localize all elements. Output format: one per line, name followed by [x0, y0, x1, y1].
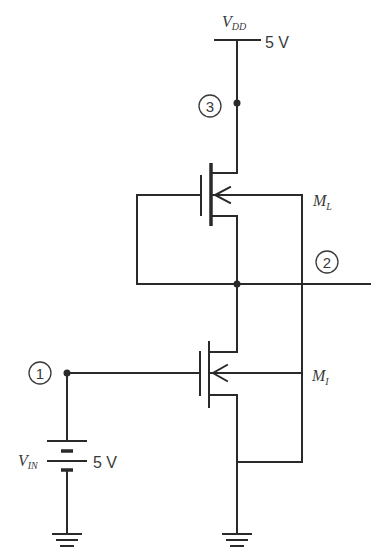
- load-gate-wire: [137, 195, 201, 284]
- node-3-label: 3: [206, 98, 214, 115]
- vin-value: 5 V: [93, 454, 117, 471]
- vin-label: VIN: [18, 452, 39, 471]
- driver-transistor: MI: [200, 342, 329, 407]
- node-1-label: 1: [36, 365, 44, 382]
- node-2-label: 2: [323, 254, 331, 271]
- battery-icon: [48, 441, 86, 470]
- circuit-diagram: VDD 5 V 3 ML 2 MI: [0, 0, 383, 559]
- node-3-dot: [234, 100, 241, 107]
- ground-left-icon: [53, 534, 81, 546]
- vdd-supply: VDD 5 V: [215, 13, 289, 51]
- vdd-value: 5 V: [265, 34, 289, 51]
- body-bus-wire: [237, 195, 302, 462]
- load-label: ML: [312, 192, 332, 212]
- node-2: 2: [234, 251, 339, 288]
- load-transistor: ML: [201, 163, 332, 226]
- ground-right-icon: [223, 534, 251, 546]
- node-3: 3: [199, 95, 241, 117]
- node-1: 1: [29, 362, 71, 384]
- driver-label: MI: [311, 367, 329, 387]
- vdd-label: VDD: [222, 13, 247, 32]
